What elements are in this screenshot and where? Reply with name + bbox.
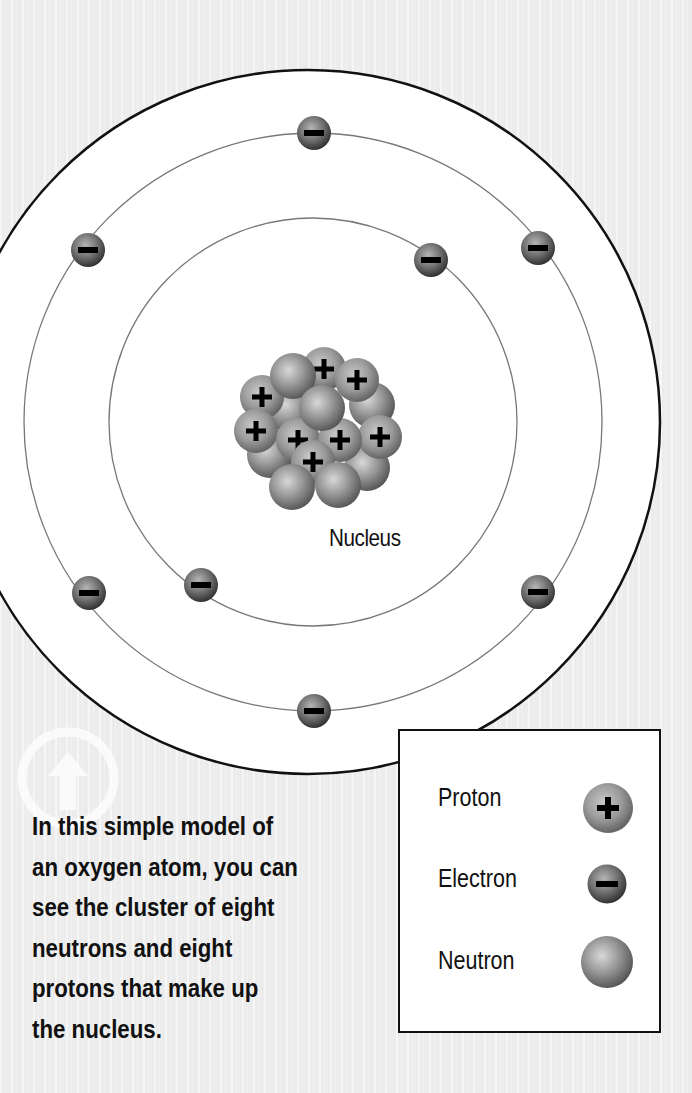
caption-line: see the cluster of eight <box>32 887 385 928</box>
electron <box>297 116 331 150</box>
legend-box: Proton Electron Neutron <box>398 729 661 1033</box>
caption-line: protons that make up <box>32 968 385 1009</box>
proton-ball-icon <box>580 780 636 836</box>
electron <box>521 575 555 609</box>
electron <box>297 694 331 728</box>
caption-line: neutrons and eight <box>32 928 385 969</box>
legend-label-electron: Electron <box>438 864 517 893</box>
caption-line: the nucleus. <box>32 1009 385 1050</box>
electron <box>414 243 448 277</box>
electron-ball-icon <box>586 863 628 905</box>
electron <box>71 233 105 267</box>
legend-label-neutron: Neutron <box>438 946 514 975</box>
caption-line: In this simple model of <box>32 806 385 847</box>
electron <box>72 576 106 610</box>
nucleus-label: Nucleus <box>329 524 401 552</box>
caption-line: an oxygen atom, you can <box>32 847 385 888</box>
neutron-ball-icon <box>579 934 635 990</box>
caption: In this simple model of an oxygen atom, … <box>32 806 385 1049</box>
electron <box>184 568 218 602</box>
legend-label-proton: Proton <box>438 783 501 812</box>
electron <box>521 231 555 265</box>
